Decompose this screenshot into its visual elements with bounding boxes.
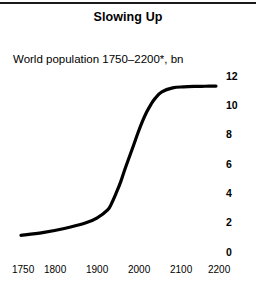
- x-tick-label: 1900: [86, 264, 108, 276]
- x-tick-label: 1800: [44, 264, 66, 276]
- y-tick-label: 12: [226, 71, 248, 82]
- chart-screenshot: Slowing Up World population 1750–2200*, …: [0, 0, 256, 293]
- y-tick-label: 2: [226, 217, 248, 228]
- y-tick-label: 0: [226, 247, 248, 258]
- x-tick-label: 2200: [208, 264, 230, 276]
- y-tick-label: 6: [226, 159, 248, 170]
- chart-subtitle: World population 1750–2200*, bn: [13, 53, 184, 65]
- y-tick-label: 8: [226, 129, 248, 140]
- x-tick-label: 1750: [12, 264, 34, 276]
- y-axis-tick-labels: 12 10 8 6 4 2 0: [226, 66, 256, 262]
- plot-area: [0, 66, 256, 262]
- x-tick-label: 2100: [170, 264, 192, 276]
- x-tick-label: 2000: [128, 264, 150, 276]
- population-curve-line: [21, 86, 216, 235]
- y-tick-label: 4: [226, 188, 248, 199]
- top-divider-rule: [0, 2, 256, 4]
- chart-title: Slowing Up: [0, 10, 256, 24]
- y-tick-label: 10: [226, 100, 248, 111]
- x-axis-tick-labels: 1750 1800 1900 2000 2100 2200: [0, 264, 256, 280]
- population-line-chart-svg: [0, 66, 256, 262]
